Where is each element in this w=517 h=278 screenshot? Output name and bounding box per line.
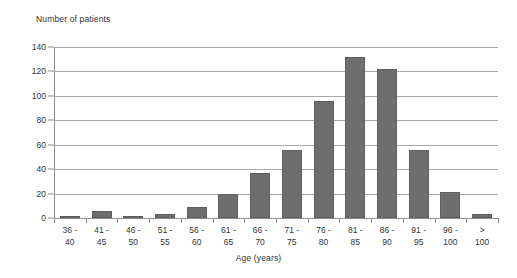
y-axis-tick-mark [48, 47, 54, 48]
x-axis-tick-mark [403, 218, 404, 223]
x-axis-title: Age (years) [0, 253, 517, 263]
bar [250, 173, 270, 218]
y-axis-tick-label: 0 [41, 213, 46, 223]
x-axis-tick-mark [276, 218, 277, 223]
y-axis-tick-label: 120 [32, 66, 46, 76]
y-axis-tick-labels: 020406080100120140 [0, 47, 46, 218]
x-axis-tick-label: 81 -85 [339, 225, 371, 248]
x-axis-tick-mark [213, 218, 214, 223]
x-axis-tick-label: 41 -45 [86, 225, 118, 248]
bar [282, 150, 302, 218]
x-axis-tick-label: >100 [466, 225, 498, 248]
x-axis-tick-mark [149, 218, 150, 223]
y-axis-tick-mark [48, 95, 54, 96]
bar [440, 192, 460, 218]
x-axis-tick-label: 51 -55 [149, 225, 181, 248]
y-axis-tick-label: 100 [32, 91, 46, 101]
y-axis-tick-mark [48, 218, 54, 219]
x-axis-tick-label: 36 -40 [54, 225, 86, 248]
x-axis-tick-mark [244, 218, 245, 223]
plot-area [54, 47, 498, 218]
y-axis-tick-mark [48, 71, 54, 72]
bar [92, 211, 112, 218]
x-axis-tick-mark [308, 218, 309, 223]
y-axis-tick-mark [48, 169, 54, 170]
x-axis-tick-label: 46 -50 [117, 225, 149, 248]
x-axis-tick-mark [339, 218, 340, 223]
y-axis-tick-mark [48, 144, 54, 145]
x-axis-tick-mark [181, 218, 182, 223]
x-axis-tick-mark [371, 218, 372, 223]
x-axis-tick-label: 91 -95 [403, 225, 435, 248]
bar-chart: Number of patients 020406080100120140 36… [0, 0, 517, 278]
x-axis-tick-label: 96 -100 [435, 225, 467, 248]
x-axis-tick-mark [117, 218, 118, 223]
x-axis-tick-labels: 36 -4041 -4546 -5051 -5556 -6061 -6566 -… [54, 225, 498, 253]
bar [345, 57, 365, 218]
y-axis-tick-mark [48, 120, 54, 121]
y-axis-tick-label: 20 [37, 189, 46, 199]
bar [314, 101, 334, 218]
x-axis-tick-mark [435, 218, 436, 223]
bar [218, 194, 238, 218]
x-axis-tick-mark [54, 218, 55, 223]
bar [409, 150, 429, 218]
y-axis-tick-mark [48, 193, 54, 194]
y-axis-tick-label: 60 [37, 140, 46, 150]
x-axis-ticks [54, 218, 498, 224]
x-axis-tick-label: 66 -70 [244, 225, 276, 248]
y-axis-title: Number of patients [36, 14, 111, 24]
x-axis-tick-label: 56 -60 [181, 225, 213, 248]
bars-layer [54, 47, 498, 218]
bar [377, 69, 397, 218]
x-axis-tick-mark [466, 218, 467, 223]
x-axis-tick-label: 71 -75 [276, 225, 308, 248]
y-axis-tick-label: 80 [37, 115, 46, 125]
x-axis-tick-label: 86 -90 [371, 225, 403, 248]
bar [187, 207, 207, 218]
y-axis-tick-label: 40 [37, 164, 46, 174]
x-axis-tick-label: 76 -80 [308, 225, 340, 248]
x-axis-tick-label: 61 -65 [213, 225, 245, 248]
y-axis-tick-label: 140 [32, 42, 46, 52]
x-axis-tick-mark [86, 218, 87, 223]
x-axis-tick-mark [498, 218, 499, 223]
